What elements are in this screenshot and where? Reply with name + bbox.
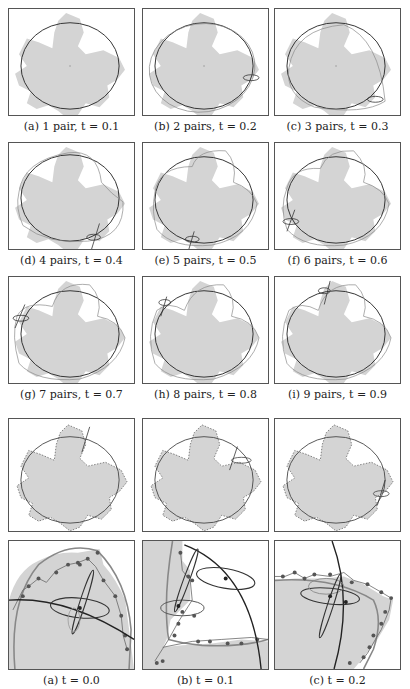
leaf-plot xyxy=(143,143,268,249)
caption-a: (a) 1 pair, t = 0.1 xyxy=(8,120,135,133)
leaf-plot xyxy=(275,277,400,383)
overview-a xyxy=(8,418,135,532)
panel-a xyxy=(8,8,135,116)
leaf-plot xyxy=(275,9,400,115)
zoomed-plot xyxy=(275,541,400,669)
zoomed-plot xyxy=(9,541,134,669)
caption-h: (h) 8 pairs, t = 0.8 xyxy=(142,388,269,401)
leaf-plot xyxy=(9,9,134,115)
panel-e xyxy=(142,142,269,250)
leaf-plot xyxy=(143,277,268,383)
leaf-plot xyxy=(9,277,134,383)
panel-i xyxy=(274,276,401,384)
caption-bottom-c: (c) t = 0.2 xyxy=(274,674,401,687)
leaf-shape xyxy=(15,13,125,115)
leaf-plot xyxy=(143,9,268,115)
zoom-panel-a xyxy=(8,540,135,670)
caption-b: (b) 2 pairs, t = 0.2 xyxy=(142,120,269,133)
zoomed-plot xyxy=(143,541,268,669)
leaf-sampled-plot xyxy=(275,419,400,531)
overview-c xyxy=(274,418,401,532)
panel-g xyxy=(8,276,135,384)
leaf-plot xyxy=(9,143,134,249)
zoom-panel-b xyxy=(142,540,269,670)
caption-d: (d) 4 pairs, t = 0.4 xyxy=(8,254,135,267)
caption-bottom-b: (b) t = 0.1 xyxy=(142,674,269,687)
caption-i: (i) 9 pairs, t = 0.9 xyxy=(274,388,401,401)
panel-f xyxy=(274,142,401,250)
panel-h xyxy=(142,276,269,384)
caption-f: (f) 6 pairs, t = 0.6 xyxy=(274,254,401,267)
leaf-plot xyxy=(275,143,400,249)
panel-d xyxy=(8,142,135,250)
leaf-sampled-plot xyxy=(143,419,268,531)
caption-c: (c) 3 pairs, t = 0.3 xyxy=(274,120,401,133)
panel-b xyxy=(142,8,269,116)
zoom-panel-c xyxy=(274,540,401,670)
caption-e: (e) 5 pairs, t = 0.5 xyxy=(142,254,269,267)
overview-b xyxy=(142,418,269,532)
leaf-sampled-plot xyxy=(9,419,134,531)
caption-bottom-a: (a) t = 0.0 xyxy=(8,674,135,687)
caption-g: (g) 7 pairs, t = 0.7 xyxy=(8,388,135,401)
panel-c xyxy=(274,8,401,116)
